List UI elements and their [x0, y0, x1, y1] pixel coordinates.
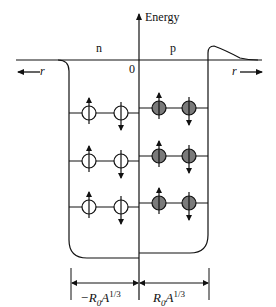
shell-model-diagram [0, 0, 276, 307]
energy-label: Energy [145, 11, 179, 23]
left-radius-sup: 1/3 [109, 289, 121, 299]
proton-levels [139, 108, 208, 203]
right-r-label: r [232, 65, 237, 77]
neutron-label: n [96, 42, 102, 54]
left-radius-A: A [101, 290, 109, 305]
left-radius-label: −R0A1/3 [80, 290, 121, 307]
left-r-label: r [40, 65, 45, 77]
left-radius-main: −R [80, 290, 97, 305]
right-radius-label: R0A1/3 [153, 290, 185, 307]
right-radius-main: R [153, 290, 161, 305]
right-radius-sup: 1/3 [173, 289, 185, 299]
origin-label: 0 [129, 63, 135, 75]
proton-label: p [170, 42, 176, 54]
